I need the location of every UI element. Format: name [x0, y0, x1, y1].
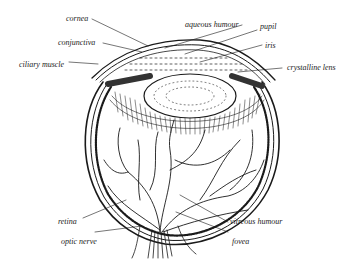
label-crystalline-lens: crystalline lens	[287, 64, 336, 72]
label-conjunctiva: conjunctiva	[58, 39, 95, 47]
label-optic-nerve: optic nerve	[61, 238, 97, 246]
label-iris: iris	[265, 42, 276, 50]
label-aqueous-humour: aqueous humour	[185, 21, 239, 29]
label-cornea: cornea	[66, 15, 88, 23]
eye-diagram	[0, 0, 358, 260]
label-ciliary-muscle: ciliary muscle	[19, 61, 64, 69]
label-retina: retina	[58, 218, 77, 226]
optic-nerve	[132, 226, 196, 258]
label-fovea: fovea	[232, 238, 249, 246]
label-vitreous-humour: vitreous humour	[230, 218, 282, 226]
crystalline-lens	[144, 74, 236, 118]
label-pupil: pupil	[260, 23, 276, 31]
